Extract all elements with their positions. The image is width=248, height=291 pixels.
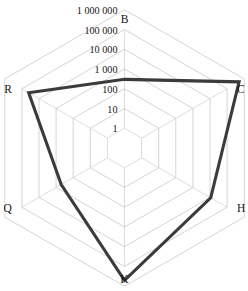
data-series-group — [29, 79, 239, 280]
axis-label-b: B — [121, 13, 129, 25]
data-polygon — [29, 79, 239, 280]
axis-label-r: R — [4, 83, 12, 95]
axis-label-k: K — [120, 273, 129, 285]
axis-label-h: H — [237, 202, 245, 214]
axis-spoke-q — [22, 158, 108, 207]
axis-label-q: Q — [4, 202, 13, 214]
axis-spokes — [22, 30, 227, 267]
radial-tick-labels: 1 000 000100 00010 0001 000100101 — [77, 5, 118, 135]
radial-tick-label: 100 — [102, 84, 117, 95]
radial-tick-label: 100 000 — [84, 25, 117, 36]
axis-label-c: C — [237, 83, 245, 95]
radial-tick-label: 1 000 — [95, 64, 118, 75]
radial-tick-label: 1 000 000 — [77, 5, 118, 16]
radial-tick-label: 1 — [112, 123, 117, 134]
radial-tick-label: 10 000 — [89, 44, 117, 55]
radial-tick-label: 10 — [107, 104, 117, 115]
axis-spoke-c — [142, 89, 228, 138]
radar-chart: BCHKQR 1 000 000100 00010 0001 000100101 — [0, 0, 248, 291]
radar-chart-canvas: BCHKQR 1 000 000100 00010 0001 000100101 — [0, 0, 248, 291]
